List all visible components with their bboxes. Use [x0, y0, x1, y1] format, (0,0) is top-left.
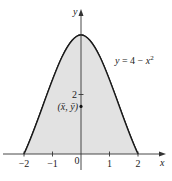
centroid-diagram: −2 −1 0 1 2 x y 2 (x̄, ȳ) y = 4 − x2	[0, 0, 172, 181]
x-tick-label: 0	[75, 155, 80, 166]
curve-label-eq: = 4 −	[119, 55, 145, 66]
centroid-point	[79, 105, 82, 108]
x-tick-label: 1	[107, 158, 112, 169]
x-tick-label: 2	[136, 158, 141, 169]
curve-label: y = 4 − x2	[114, 54, 154, 66]
y-axis-label: y	[72, 6, 78, 17]
y-tick-label: 2	[72, 89, 77, 100]
x-tick-label: −1	[47, 158, 58, 169]
x-axis-arrow-icon	[159, 152, 166, 157]
y-axis-arrow-icon	[79, 9, 84, 16]
x-axis-label: x	[159, 157, 165, 168]
curve-label-exp: 2	[150, 54, 154, 62]
centroid-label: (x̄, ȳ)	[57, 101, 78, 113]
x-tick-label: −2	[19, 158, 30, 169]
